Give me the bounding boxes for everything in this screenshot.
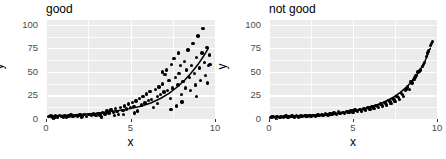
facet-good: good y 0255075100 0510 x [0,0,223,159]
y-tick-label: 50 [12,67,38,77]
x-tick-label: 0 [43,123,48,133]
y-tick-label: 25 [12,90,38,100]
facet-title-good: good [46,2,73,16]
y-tick: 0 [235,114,261,124]
y-tick: 0 [12,114,38,124]
y-tick: 100 [235,20,261,30]
fit-curve [269,20,437,119]
fit-curve-path [49,48,208,116]
fit-curve-path [272,48,430,117]
plot-panel-good [46,20,215,119]
y-tick-label: 100 [12,20,38,30]
plot-panel-not-good [269,20,437,119]
y-axis-title-left: y [0,64,6,70]
y-tick: 100 [12,20,38,30]
x-tick-label: 5 [128,123,133,133]
fit-curve [46,20,215,119]
y-tick-label: 75 [235,43,261,53]
facet-not-good: not good y 0255075100 0510 x [223,0,446,159]
y-tick: 50 [12,67,38,77]
x-tick-label: 10 [210,123,221,133]
y-tick: 75 [235,43,261,53]
x-axis-title-left: x [46,136,215,149]
y-axis-ticks-right: 0255075100 [235,20,261,119]
x-tick-label: 0 [266,123,271,133]
y-tick-label: 25 [235,90,261,100]
y-tick-label: 50 [235,67,261,77]
y-tick: 25 [12,90,38,100]
x-axis-title-right: x [269,136,437,149]
y-tick: 50 [235,67,261,77]
figure-root: good y 0255075100 0510 x not good y 0255… [0,0,446,159]
facet-title-not-good: not good [269,2,316,16]
y-tick: 25 [235,90,261,100]
x-tick-label: 10 [432,123,443,133]
y-tick-label: 100 [235,20,261,30]
x-tick-label: 5 [350,123,355,133]
y-tick-label: 0 [235,114,261,124]
y-tick-label: 75 [12,43,38,53]
y-axis-title-right: y [216,64,229,70]
y-tick: 75 [12,43,38,53]
y-axis-ticks-left: 0255075100 [12,20,38,119]
y-tick-label: 0 [12,114,38,124]
